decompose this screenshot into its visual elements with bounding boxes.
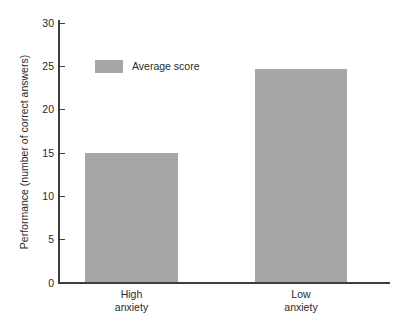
y-axis-tick-label: 0 bbox=[48, 277, 54, 288]
legend-label-average-score: Average score bbox=[132, 61, 200, 72]
bar-chart: 051015202530 Performance (number of corr… bbox=[0, 0, 403, 325]
y-axis-title: Performance (number of correct answers) bbox=[16, 20, 32, 284]
y-axis-tick-mark bbox=[59, 283, 65, 284]
y-axis-tick-mark bbox=[59, 196, 65, 197]
bar-low-anxiety bbox=[255, 69, 347, 282]
chart-legend: Average score bbox=[95, 60, 200, 73]
y-axis-tick-label: 5 bbox=[48, 234, 54, 245]
x-axis-label-line: anxiety bbox=[255, 301, 347, 314]
y-axis-tick-mark bbox=[59, 109, 65, 110]
x-axis-label-line: High bbox=[85, 288, 178, 301]
y-axis-tick-mark bbox=[59, 23, 65, 24]
y-axis-tick-label: 15 bbox=[42, 147, 54, 158]
y-axis-tick-mark bbox=[59, 153, 65, 154]
x-axis-label-line: Low bbox=[255, 288, 347, 301]
legend-swatch-average-score bbox=[95, 60, 123, 73]
bar-high-anxiety bbox=[85, 153, 178, 282]
y-axis-tick-label: 10 bbox=[42, 191, 54, 202]
y-axis-tick-mark bbox=[59, 66, 65, 67]
y-axis-tick-label: 30 bbox=[42, 17, 54, 28]
y-axis-tick-label: 20 bbox=[42, 104, 54, 115]
y-axis-tick-label: 25 bbox=[42, 61, 54, 72]
x-axis-label-low-anxiety: Lowanxiety bbox=[255, 288, 347, 314]
y-axis-tick-mark bbox=[59, 239, 65, 240]
x-axis-label-high-anxiety: Highanxiety bbox=[85, 288, 178, 314]
x-axis-label-line: anxiety bbox=[85, 301, 178, 314]
